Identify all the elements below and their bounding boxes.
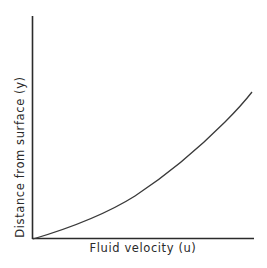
velocity-profile-curve <box>33 92 252 239</box>
x-axis-label: Fluid velocity (u) <box>90 241 197 255</box>
diagram-canvas: Fluid velocity (u) Distance from surface… <box>0 0 267 268</box>
y-axis-label: Distance from surface (y) <box>13 76 27 237</box>
